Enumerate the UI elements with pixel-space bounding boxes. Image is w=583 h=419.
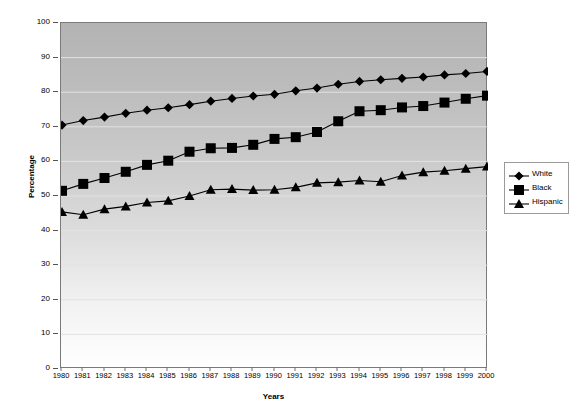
x-axis-tick-label: 1987 <box>201 371 218 380</box>
x-axis-tick-label: 1985 <box>159 371 176 380</box>
x-axis-tick-label: 1984 <box>138 371 155 380</box>
series-layer <box>61 23 488 369</box>
y-axis-tick-label: 0 <box>46 364 50 372</box>
legend-item-label: Hispanic <box>530 198 563 206</box>
x-axis: 1980198119821983198419851986198719881989… <box>60 371 487 385</box>
legend-item[interactable]: Black <box>508 181 563 195</box>
plot-area <box>60 22 487 368</box>
x-axis-tick-label: 1995 <box>371 371 388 380</box>
x-axis-tick-label: 1982 <box>95 371 112 380</box>
y-axis-tick-mark <box>53 333 58 334</box>
legend-item-label: Black <box>530 184 552 192</box>
x-axis-tick-label: 1999 <box>456 371 473 380</box>
x-axis-tick-label: 1981 <box>74 371 91 380</box>
legend-item[interactable]: Hispanic <box>508 195 563 209</box>
chart-root: 0102030405060708090100 Percentage 198019… <box>0 0 583 419</box>
y-axis-tick-mark <box>53 195 58 196</box>
y-axis-tick-label: 40 <box>41 226 50 234</box>
legend-diamond-marker-icon <box>508 168 530 180</box>
y-axis-tick-mark <box>53 368 58 369</box>
legend-triangle-marker-icon <box>508 196 530 208</box>
y-axis-tick-mark <box>53 160 58 161</box>
y-axis-tick-mark <box>53 230 58 231</box>
y-axis-tick-mark <box>53 126 58 127</box>
chart-legend: WhiteBlackHispanic <box>504 162 569 214</box>
x-axis-tick-label: 1988 <box>223 371 240 380</box>
y-axis-tick-label: 80 <box>41 87 50 95</box>
x-axis-tick-label: 1996 <box>393 371 410 380</box>
x-axis-tick-label: 1980 <box>53 371 70 380</box>
y-axis-tick-label: 10 <box>41 329 50 337</box>
x-axis-tick-label: 2000 <box>478 371 495 380</box>
y-axis-tick-label: 20 <box>41 295 50 303</box>
x-axis-tick-label: 1986 <box>180 371 197 380</box>
y-axis-tick-mark <box>53 22 58 23</box>
legend-item-label: White <box>530 170 552 178</box>
x-axis-tick-label: 1990 <box>265 371 282 380</box>
y-axis-tick-label: 100 <box>37 18 50 26</box>
x-axis-tick-label: 1991 <box>286 371 303 380</box>
y-axis-title: Percentage <box>27 132 36 222</box>
x-axis-tick-label: 1994 <box>350 371 367 380</box>
y-axis-tick-label: 30 <box>41 260 50 268</box>
y-axis-tick-label: 90 <box>41 53 50 61</box>
y-axis-tick-mark <box>53 264 58 265</box>
x-axis-tick-label: 1993 <box>329 371 346 380</box>
x-axis-tick-label: 1983 <box>116 371 133 380</box>
y-axis-tick-mark <box>53 57 58 58</box>
y-axis-tick-label: 60 <box>41 156 50 164</box>
y-axis-tick-label: 70 <box>41 122 50 130</box>
x-axis-tick-label: 1997 <box>414 371 431 380</box>
y-axis-tick-label: 50 <box>41 191 50 199</box>
x-axis-title: Years <box>60 392 487 401</box>
x-axis-tick-label: 1992 <box>308 371 325 380</box>
legend-item[interactable]: White <box>508 167 563 181</box>
legend-square-marker-icon <box>508 182 530 194</box>
x-axis-tick-label: 1998 <box>435 371 452 380</box>
y-axis-tick-mark <box>53 299 58 300</box>
y-axis-tick-mark <box>53 91 58 92</box>
x-axis-tick-label: 1989 <box>244 371 261 380</box>
